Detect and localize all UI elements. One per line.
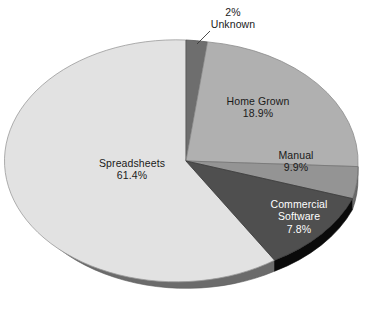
pie-label-spreadsheets: Spreadsheets 61.4% bbox=[71, 157, 193, 182]
pie-label-unknown-name: Unknown bbox=[187, 18, 279, 30]
pie-label-spreadsheets-value: 61.4% bbox=[71, 169, 193, 181]
pie-chart: 2% Unknown Home Grown 18.9% Manual 9.9% … bbox=[0, 0, 379, 314]
pie-label-commercial-software: Commercial Software 7.8% bbox=[253, 198, 345, 235]
pie-label-home-grown-value: 18.9% bbox=[205, 107, 311, 119]
pie-label-commercial-software-line1: Commercial bbox=[253, 198, 345, 210]
pie-label-unknown: 2% Unknown bbox=[187, 6, 279, 31]
pie-label-home-grown: Home Grown 18.9% bbox=[205, 95, 311, 120]
pie-label-home-grown-name: Home Grown bbox=[205, 95, 311, 107]
pie-label-manual-value: 9.9% bbox=[253, 161, 339, 173]
pie-label-commercial-software-value: 7.8% bbox=[253, 223, 345, 235]
pie-label-manual-name: Manual bbox=[253, 149, 339, 161]
pie-label-spreadsheets-name: Spreadsheets bbox=[71, 157, 193, 169]
pie-label-commercial-software-line2: Software bbox=[253, 210, 345, 222]
pie-label-unknown-value: 2% bbox=[187, 6, 279, 18]
pie-label-manual: Manual 9.9% bbox=[253, 149, 339, 174]
